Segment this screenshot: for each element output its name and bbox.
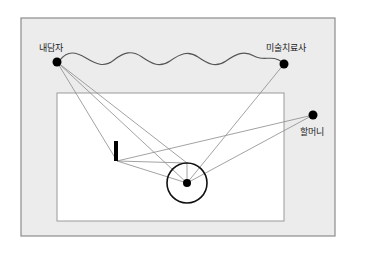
therapist-label: 미술치료사 xyxy=(266,41,306,54)
grandmother-node xyxy=(309,111,318,120)
grandmother-label: 할머니 xyxy=(300,125,324,138)
client-label: 내담자 xyxy=(39,41,63,54)
therapist-node xyxy=(280,60,289,69)
bar-figure xyxy=(114,141,118,161)
client-node xyxy=(53,58,62,67)
inner-rectangle xyxy=(57,93,284,221)
center-dot xyxy=(183,179,191,187)
